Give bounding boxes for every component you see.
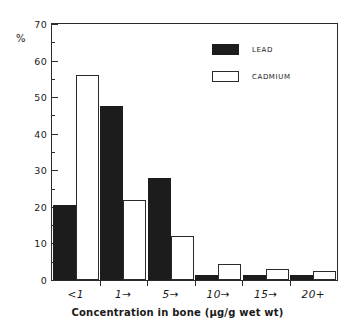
x-axis-tick-label: 1→ <box>115 288 131 300</box>
x-axis-tick-label: 5→ <box>163 288 179 300</box>
legend-label-lead: LEAD <box>252 46 273 54</box>
x-axis-tick <box>242 281 243 286</box>
bar-lead-0 <box>53 205 76 280</box>
x-axis-tick-label: 15→ <box>254 288 277 300</box>
y-axis-unit-label: % <box>16 33 26 44</box>
bar-lead-1 <box>100 106 123 280</box>
bar-cadmium-5 <box>313 271 336 280</box>
y-axis-tick-label: 70 <box>34 19 47 30</box>
bar-cadmium-0 <box>76 75 99 280</box>
bar-cadmium-2 <box>171 236 194 280</box>
y-axis-tick-label: 60 <box>34 55 47 66</box>
bar-lead-3 <box>195 275 218 280</box>
legend-swatch-cadmium-icon <box>212 71 239 82</box>
x-axis-tick <box>100 281 101 286</box>
y-axis-tick-label: 30 <box>34 165 47 176</box>
y-axis-tick-label: 0 <box>41 275 47 286</box>
x-axis-tick-label: 20+ <box>302 288 325 300</box>
bar-chart-figure: % 010203040506070 <11→5→10→15→20+ Concen… <box>0 0 355 334</box>
chart-legend: LEAD CADMIUM <box>212 44 327 98</box>
legend-label-cadmium: CADMIUM <box>252 73 291 81</box>
x-axis-tick-label: <1 <box>68 288 84 300</box>
y-axis-tick-label: 40 <box>34 128 47 139</box>
x-axis-tick <box>195 281 196 286</box>
x-axis-tick-label: 10→ <box>207 288 230 300</box>
legend-item-cadmium: CADMIUM <box>212 71 327 82</box>
bar-lead-2 <box>148 178 171 280</box>
bar-cadmium-4 <box>266 269 289 280</box>
y-axis-tick-label: 50 <box>34 92 47 103</box>
legend-item-lead: LEAD <box>212 44 327 55</box>
legend-swatch-lead-icon <box>212 44 239 55</box>
y-axis-tick-label: 10 <box>34 238 47 249</box>
y-axis-tick-label: 20 <box>34 201 47 212</box>
bar-cadmium-1 <box>123 200 146 280</box>
y-axis-tick <box>51 280 58 281</box>
bar-lead-4 <box>243 275 266 280</box>
bar-lead-5 <box>290 275 313 280</box>
x-axis-tick <box>147 281 148 286</box>
bar-cadmium-3 <box>218 264 241 280</box>
x-axis-tick <box>290 281 291 286</box>
x-axis-title: Concentration in bone (µg/g wet wt) <box>0 307 355 318</box>
